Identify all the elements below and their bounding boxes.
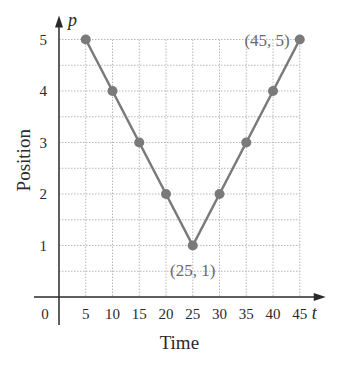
annotation-min-point: (25, 1) [170,261,215,280]
x-tick-label: 35 [239,306,254,322]
x-axis-arrow-icon [314,293,326,301]
x-tick-label: 5 [82,306,90,322]
y-tick-label: 4 [40,83,48,99]
data-point [241,138,251,148]
annotation-max-point: (45, 5) [244,31,289,50]
data-point [268,86,278,96]
x-tick-label: 15 [132,306,147,322]
data-point [108,86,118,96]
x-tick-label: 25 [185,306,200,322]
x-tick-label: 0 [41,306,49,322]
y-axis-variable: p [66,10,77,30]
y-tick-label: 5 [40,32,48,48]
data-point [215,189,225,199]
y-tick-label: 3 [40,135,48,151]
x-axis-variable: t [312,303,318,323]
grid [59,40,300,298]
x-tick-label: 20 [159,306,174,322]
y-axis-arrow-icon [55,16,63,28]
y-tick-label: 1 [40,238,48,254]
y-axis-title: Position [13,129,34,192]
x-tick-label: 40 [266,306,281,322]
x-axis-title: Time [160,332,199,353]
data-point [81,35,91,45]
x-tick-label: 45 [292,306,307,322]
data-point [295,35,305,45]
y-tick-label: 2 [40,186,48,202]
x-tick-label: 30 [212,306,227,322]
position-time-chart: 05101520253035404512345ptTimePosition(45… [0,0,348,368]
x-tick-label: 10 [105,306,120,322]
data-point [188,241,198,251]
data-point [161,189,171,199]
data-point [134,138,144,148]
